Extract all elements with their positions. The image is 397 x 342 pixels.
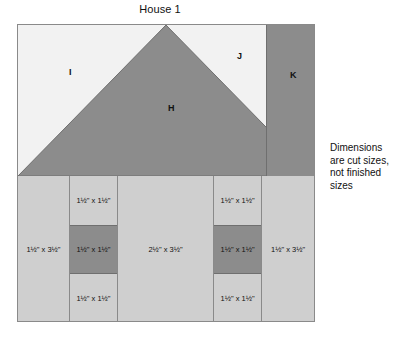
chimney-patch-k	[266, 25, 315, 176]
page-title: House 1	[0, 3, 320, 15]
patch-cell: 1½" x 1½"	[70, 274, 117, 322]
patch-cell: 1½" x 3½"	[18, 176, 69, 322]
sky-patch-label-i: I	[69, 67, 72, 77]
wall-column-right-window: 1½" x 1½" 1½" x 1½" 1½" x 1½"	[214, 176, 262, 322]
sky-patch-label-j: J	[237, 51, 242, 61]
roof-patch-label-h: H	[168, 103, 175, 113]
wall-area: 1½" x 3½" 1½" x 1½" 1½" x 1½" 1½" x 1½" …	[18, 176, 314, 322]
wall-column-door: 2½" x 3½"	[118, 176, 214, 322]
patch-cell: 1½" x 1½"	[214, 274, 261, 322]
patch-cell: 1½" x 3½"	[262, 176, 314, 322]
wall-column-right-strip: 1½" x 3½"	[262, 176, 314, 322]
patch-cell-door: 2½" x 3½"	[118, 176, 213, 322]
chimney-patch-label-k: K	[290, 70, 297, 80]
dimensions-note: Dimensions are cut sizes, not finished s…	[330, 142, 396, 192]
quilt-block-diagram: I J K H 1½" x 3½" 1½" x 1½" 1½" x 1½" 1½…	[17, 24, 315, 322]
wall-column-left-window: 1½" x 1½" 1½" x 1½" 1½" x 1½"	[70, 176, 118, 322]
patch-cell-window-pane: 1½" x 1½"	[214, 225, 261, 274]
patch-cell-window-pane: 1½" x 1½"	[70, 225, 117, 274]
sky-area: I J K H	[18, 25, 314, 176]
patch-cell: 1½" x 1½"	[70, 176, 117, 225]
patch-cell: 1½" x 1½"	[214, 176, 261, 225]
wall-column-left-strip: 1½" x 3½"	[18, 176, 70, 322]
